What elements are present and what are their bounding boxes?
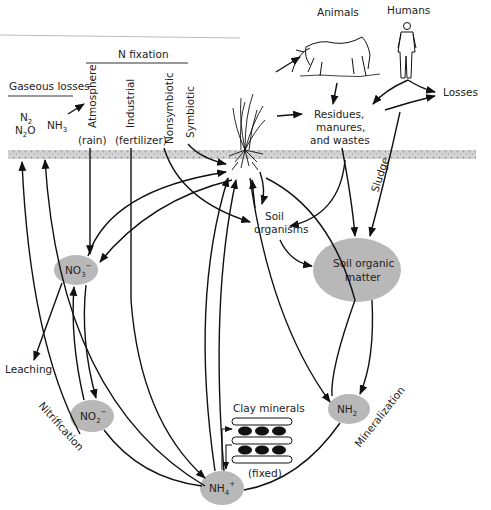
losses-label: Losses <box>443 86 478 98</box>
fertilizer-label: (fertilizer) <box>115 134 167 146</box>
horse-icon <box>292 37 380 77</box>
human-icon <box>398 23 416 79</box>
svg-text:manures,: manures, <box>316 121 365 133</box>
soil-organic-matter-node: Soil organic matter <box>313 238 401 302</box>
industrial-label: Industrial <box>124 79 136 128</box>
svg-text:Residues,: Residues, <box>314 108 364 120</box>
gaseous-losses-header: Gaseous losses <box>8 80 90 96</box>
leaching-label: Leaching <box>5 363 52 375</box>
page-fold-line <box>0 35 240 38</box>
clay-minerals-figure: Clay minerals (fixed) <box>232 402 305 479</box>
svg-text:N fixation: N fixation <box>118 48 169 60</box>
rain-label: (rain) <box>78 134 107 146</box>
n2-n2o-label: N2 N2O <box>15 111 36 139</box>
nonsymbiotic-label: Nonsymbiotic <box>163 72 175 144</box>
humans-label: Humans <box>387 4 430 16</box>
svg-text:N2O: N2O <box>15 124 36 139</box>
n-fixation-header: N fixation <box>86 48 188 63</box>
svg-text:Clay minerals: Clay minerals <box>233 402 305 414</box>
nh2-node: NH2 <box>328 394 370 424</box>
nh4-node: NH4+ <box>200 471 244 505</box>
svg-text:organisms: organisms <box>254 223 308 235</box>
svg-text:(fixed): (fixed) <box>248 467 282 479</box>
sludge-label: Sludge <box>368 156 391 194</box>
svg-text:matter: matter <box>345 271 381 283</box>
nitrogen-cycle-diagram: N fixation Gaseous losses N2 N2O NH3 Atm… <box>0 0 491 510</box>
residues-label: Residues, manures, and wastes <box>310 108 370 146</box>
svg-text:Gaseous losses: Gaseous losses <box>9 80 90 92</box>
symbiotic-label: Symbiotic <box>184 86 196 138</box>
svg-text:Soil: Soil <box>265 210 284 222</box>
nh3-label: NH3 <box>47 119 67 134</box>
animals-label: Animals <box>317 6 359 18</box>
svg-text:NH3: NH3 <box>47 119 67 134</box>
atmosphere-label: Atmosphere <box>86 64 98 128</box>
svg-text:and wastes: and wastes <box>310 134 370 146</box>
